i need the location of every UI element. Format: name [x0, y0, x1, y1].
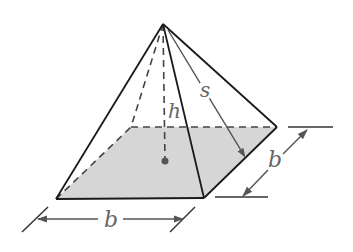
base-edge-front	[56, 198, 204, 199]
pyramid-diagram: h s b b	[0, 0, 353, 252]
base-center-dot	[162, 158, 169, 165]
label-base-width: b	[104, 207, 118, 232]
label-slant-height: s	[200, 78, 210, 102]
hidden-lateral-edge	[131, 24, 163, 127]
label-base-depth: b	[268, 147, 282, 172]
label-height: h	[168, 99, 181, 123]
